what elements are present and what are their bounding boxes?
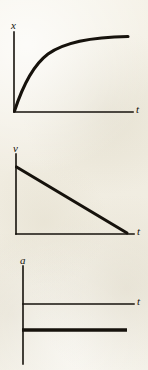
acceleration-x-axis-label: t	[137, 296, 140, 307]
velocity-y-axis-label: v	[13, 143, 18, 154]
position-chart-svg	[0, 0, 148, 122]
position-y-axis-label: x	[11, 20, 16, 31]
velocity-x-axis-label: t	[137, 226, 140, 237]
velocity-chart-svg	[0, 122, 148, 244]
position-x-axis-label: t	[136, 104, 139, 115]
figure-kinematics-graphs: x t v t a t	[0, 0, 148, 370]
panel-position-vs-time: x t	[0, 0, 148, 122]
position-curve	[15, 37, 129, 112]
acceleration-y-axis-label: a	[20, 255, 26, 266]
panel-acceleration-vs-time: a t	[0, 244, 148, 370]
velocity-line	[17, 167, 128, 233]
panel-velocity-vs-time: v t	[0, 122, 148, 244]
